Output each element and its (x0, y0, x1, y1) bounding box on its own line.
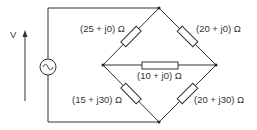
resistor-top-right (177, 26, 198, 47)
node-top (158, 7, 161, 10)
impedance-label-top-left: (25 + j0) Ω (80, 23, 125, 34)
voltage-arrow-icon (23, 30, 28, 101)
impedance-label-top-right: (20 + j0) Ω (196, 23, 241, 34)
node-bottom (158, 121, 161, 124)
ac-source-icon (40, 59, 56, 75)
resistor-middle (142, 62, 178, 69)
impedance-label-middle: (10 + j0) Ω (137, 70, 182, 81)
impedance-label-bottom-right: (20 + j30) Ω (194, 94, 244, 105)
resistor-bottom-left (121, 83, 141, 104)
bridge-circuit-diagram: V (25 + j0) Ω (20 + j0) Ω (10 + j0) Ω (1… (0, 0, 257, 130)
impedance-label-bottom-left: (15 + j30) Ω (72, 94, 122, 105)
node-left (102, 64, 105, 67)
voltage-label: V (10, 29, 17, 40)
node-right (215, 64, 218, 67)
